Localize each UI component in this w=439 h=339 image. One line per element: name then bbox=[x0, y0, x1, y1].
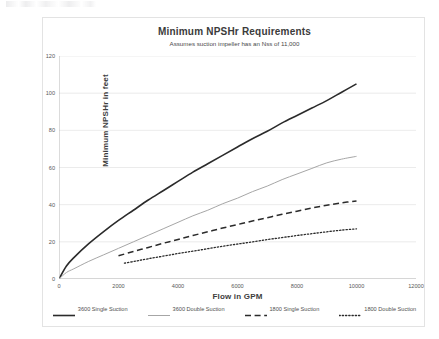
x-tick-label: 6000 bbox=[231, 283, 243, 289]
legend-label-4: 1800 Double Suction bbox=[364, 306, 416, 312]
plot-area: 020406080100120 020004000600080001000012… bbox=[59, 56, 416, 279]
legend-item-2[interactable]: 3600 Double Suction bbox=[148, 305, 225, 312]
series-line-4 bbox=[124, 229, 356, 263]
legend-label-3: 1800 Single Suction bbox=[270, 306, 320, 312]
chart-legend: 3600 Single Suction3600 Double Suction18… bbox=[43, 305, 426, 312]
x-tick-label: 4000 bbox=[172, 283, 184, 289]
chart-frame: Minimum NPSHr Requirements Assumes sucti… bbox=[42, 17, 425, 327]
legend-item-3[interactable]: 1800 Single Suction bbox=[245, 305, 320, 312]
y-tick-label: 20 bbox=[49, 239, 55, 245]
x-axis-title: Flow in GPM bbox=[59, 292, 416, 301]
legend-swatch-4 bbox=[339, 305, 361, 312]
y-tick-label: 40 bbox=[49, 202, 55, 208]
legend-swatch-1 bbox=[53, 305, 75, 312]
gridlines bbox=[59, 56, 416, 279]
x-tick-label: 10000 bbox=[349, 283, 365, 289]
legend-label-1: 3600 Single Suction bbox=[78, 306, 128, 312]
x-tick-label: 2000 bbox=[112, 283, 124, 289]
scan-artifact bbox=[6, 1, 96, 7]
chart-title: Minimum NPSHr Requirements bbox=[43, 26, 426, 37]
legend-item-1[interactable]: 3600 Single Suction bbox=[53, 305, 128, 312]
y-axis-title: Minimum NPSHr in feet bbox=[101, 41, 110, 201]
legend-label-2: 3600 Double Suction bbox=[173, 306, 225, 312]
y-tick-label: 120 bbox=[46, 53, 55, 59]
x-tick-label: 12000 bbox=[408, 283, 424, 289]
y-tick-label: 60 bbox=[49, 165, 55, 171]
y-tick-label: 80 bbox=[49, 127, 55, 133]
legend-item-4[interactable]: 1800 Double Suction bbox=[339, 305, 416, 312]
y-tick-label: 100 bbox=[46, 90, 55, 96]
series-line-3 bbox=[119, 201, 357, 256]
legend-swatch-3 bbox=[245, 305, 267, 312]
x-tick-label: 8000 bbox=[291, 283, 303, 289]
y-tick-label: 0 bbox=[52, 276, 55, 282]
x-tick-label: 0 bbox=[57, 283, 60, 289]
chart-plot-svg bbox=[59, 56, 416, 279]
legend-swatch-2 bbox=[148, 305, 170, 312]
